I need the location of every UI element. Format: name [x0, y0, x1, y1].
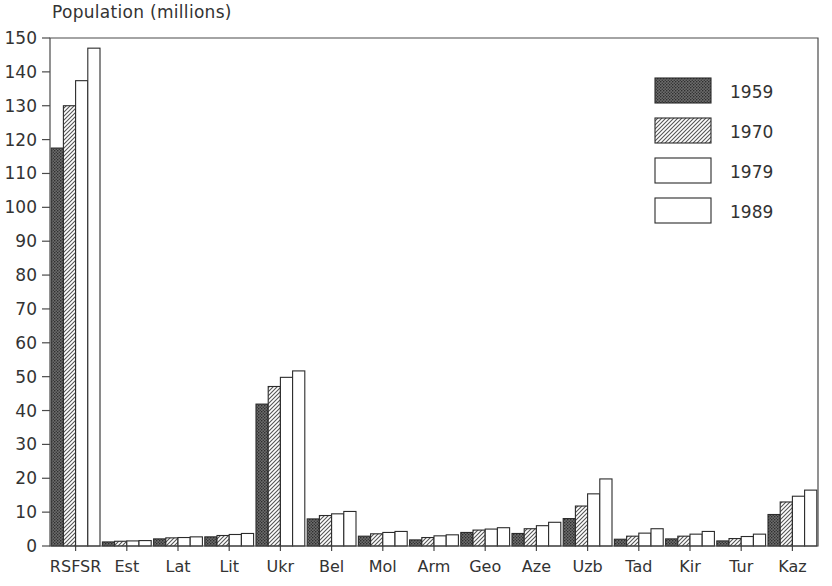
legend-swatch-1979 [655, 158, 711, 183]
bar-kaz-1959 [768, 515, 780, 547]
bar-aze-1959 [512, 533, 524, 546]
bar-rsfsr-1979 [76, 81, 88, 546]
bar-ukr-1989 [293, 371, 305, 546]
bar-aze-1989 [549, 522, 561, 546]
bar-est-1979 [127, 541, 139, 546]
bar-est-1959 [102, 542, 114, 546]
x-tick-label-lat: Lat [166, 557, 191, 576]
bar-lit-1970 [217, 536, 229, 547]
plot-frame [50, 38, 818, 546]
bar-ukr-1959 [256, 404, 268, 546]
legend-label-1989: 1989 [730, 202, 773, 222]
legend-label-1979: 1979 [730, 162, 773, 182]
y-tick-label: 150 [5, 28, 37, 48]
bar-uzb-1989 [600, 479, 612, 546]
bar-arm-1979 [434, 536, 446, 546]
bar-tad-1970 [627, 536, 639, 546]
bar-aze-1979 [536, 526, 548, 546]
y-tick-label: 80 [15, 265, 37, 285]
y-tick-label: 110 [5, 163, 37, 183]
y-tick-label: 50 [15, 367, 37, 387]
x-tick-label-geo: Geo [469, 557, 501, 576]
bar-uzb-1970 [575, 506, 587, 546]
bar-geo-1979 [485, 529, 497, 546]
bar-kaz-1989 [805, 490, 817, 546]
chart-legend: 1959197019791989 [655, 78, 773, 223]
bar-bel-1970 [319, 516, 331, 546]
bar-kir-1989 [702, 531, 714, 546]
bar-rsfsr-1989 [88, 48, 100, 546]
x-tick-label-arm: Arm [418, 557, 451, 576]
x-tick-label-tad: Tad [624, 557, 652, 576]
bar-kaz-1979 [792, 496, 804, 546]
y-tick-label: 0 [26, 536, 37, 556]
bar-tur-1970 [729, 539, 741, 546]
x-tick-label-ukr: Ukr [267, 557, 295, 576]
bar-tad-1989 [651, 529, 663, 546]
x-tick-label-kir: Kir [679, 557, 701, 576]
x-tick-label-rsfsr: RSFSR [50, 557, 101, 576]
plot-area: 0102030405060708090100110120130140150 RS… [0, 0, 832, 586]
bar-mol-1959 [358, 536, 370, 546]
bar-mol-1970 [371, 534, 383, 546]
bar-bel-1979 [332, 514, 344, 546]
bar-ukr-1970 [268, 386, 280, 546]
bar-uzb-1979 [588, 494, 600, 546]
bar-mol-1979 [383, 532, 395, 546]
x-tick-label-aze: Aze [522, 557, 551, 576]
y-tick-label: 10 [15, 502, 37, 522]
bar-lit-1989 [241, 533, 253, 546]
bar-est-1970 [115, 541, 127, 546]
bar-tur-1979 [741, 537, 753, 546]
bar-ukr-1979 [280, 377, 292, 546]
bar-aze-1970 [524, 529, 536, 546]
bar-lat-1989 [190, 537, 202, 546]
bar-tad-1959 [614, 539, 626, 546]
bar-lat-1970 [166, 538, 178, 546]
bar-kaz-1970 [780, 502, 792, 546]
bar-kir-1959 [666, 539, 678, 546]
x-tick-label-uzb: Uzb [572, 557, 602, 576]
bar-arm-1959 [410, 540, 422, 546]
legend-swatch-1959 [655, 78, 711, 103]
x-tick-label-bel: Bel [319, 557, 344, 576]
y-tick-label: 90 [15, 231, 37, 251]
bar-bel-1959 [307, 519, 319, 546]
legend-label-1970: 1970 [730, 122, 773, 142]
y-axis-ticks: 0102030405060708090100110120130140150 [5, 28, 50, 556]
bar-uzb-1959 [563, 519, 575, 546]
x-tick-label-lit: Lit [219, 557, 239, 576]
x-tick-label-est: Est [114, 557, 139, 576]
y-tick-label: 120 [5, 130, 37, 150]
y-tick-label: 140 [5, 62, 37, 82]
y-tick-label: 20 [15, 468, 37, 488]
y-tick-label: 60 [15, 333, 37, 353]
bar-lit-1959 [205, 537, 217, 546]
bar-kir-1970 [678, 536, 690, 546]
x-tick-label-mol: Mol [369, 557, 397, 576]
x-tick-label-tur: Tur [728, 557, 753, 576]
bar-arm-1989 [446, 535, 458, 546]
bar-geo-1970 [473, 530, 485, 546]
bar-mol-1989 [395, 531, 407, 546]
bar-rsfsr-1970 [63, 106, 75, 546]
bar-kir-1979 [690, 534, 702, 546]
bar-arm-1970 [422, 538, 434, 546]
bar-tur-1959 [717, 541, 729, 546]
bar-geo-1989 [497, 528, 509, 546]
y-tick-label: 130 [5, 96, 37, 116]
y-tick-label: 40 [15, 401, 37, 421]
bar-lit-1979 [229, 534, 241, 546]
y-tick-label: 30 [15, 434, 37, 454]
bar-tad-1979 [639, 533, 651, 546]
legend-label-1959: 1959 [730, 82, 773, 102]
bar-bel-1989 [344, 511, 356, 546]
y-tick-label: 100 [5, 197, 37, 217]
legend-swatch-1989 [655, 198, 711, 223]
bar-geo-1959 [461, 532, 473, 546]
bar-lat-1979 [178, 538, 190, 546]
bar-tur-1989 [753, 534, 765, 546]
legend-swatch-1970 [655, 118, 711, 143]
x-tick-label-kaz: Kaz [778, 557, 806, 576]
bar-est-1989 [139, 541, 151, 546]
